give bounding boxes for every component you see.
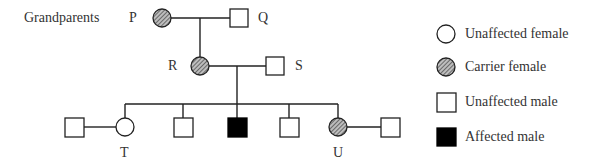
individual-t-unaffected-female [116, 118, 134, 136]
legend-affected-male-icon [437, 128, 456, 146]
individual-s-unaffected-male [266, 57, 284, 75]
legend-label-unaffected-male: Unaffected male [465, 94, 558, 110]
individual-q-unaffected-male [230, 9, 248, 27]
individual-son1-unaffected-male [174, 118, 193, 137]
individual-t-spouse-unaffected-male [65, 118, 84, 137]
individual-u-spouse-unaffected-male [381, 118, 400, 137]
generation-label: Grandparents [24, 10, 99, 26]
label-u: U [333, 145, 343, 161]
individual-r-carrier-female [191, 57, 209, 75]
label-t: T [120, 145, 129, 161]
legend-unaffected-male-icon [437, 93, 456, 112]
legend-label-carrier-female: Carrier female [465, 59, 546, 75]
individual-p-carrier-female [153, 9, 171, 27]
individual-son3-unaffected-male [280, 118, 299, 137]
label-r: R [168, 58, 177, 74]
legend-unaffected-female-icon [437, 25, 455, 43]
legend-carrier-female-icon [437, 58, 455, 76]
legend-label-unaffected-female: Unaffected female [465, 26, 569, 42]
individual-u-carrier-female [329, 118, 347, 136]
legend-label-affected-male: Affected male [465, 129, 544, 145]
label-p: P [129, 10, 137, 26]
label-s: S [295, 58, 303, 74]
individual-son2-affected-male [228, 118, 247, 137]
label-q: Q [258, 10, 268, 26]
